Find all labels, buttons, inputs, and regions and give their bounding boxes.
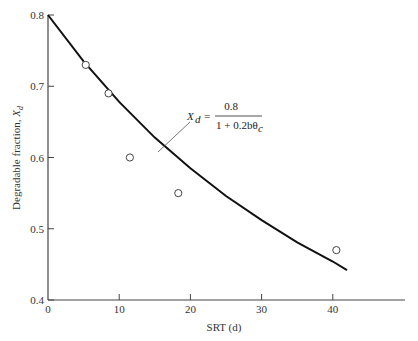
equation-lhs-sub: d [195, 113, 201, 125]
x-ticks: 010203040 [45, 294, 339, 315]
equation-equals: = [204, 110, 210, 122]
y-tick-label: 0.8 [30, 9, 44, 21]
equation-denominator-sub: c [258, 122, 263, 134]
x-tick-label: 40 [327, 303, 339, 315]
svg-text:Degradable fraction, Xd: Degradable fraction, Xd [10, 105, 25, 210]
equation-annotation: X d = 0.8 1 + 0.2bθ c [186, 100, 263, 134]
x-tick-label: 30 [256, 303, 268, 315]
data-point [105, 90, 112, 97]
y-tick-label: 0.4 [30, 294, 44, 306]
x-axis-label: SRT (d) [207, 321, 242, 334]
y-tick-label: 0.7 [30, 80, 44, 92]
x-tick-label: 20 [185, 303, 197, 315]
model-curve [48, 15, 347, 270]
data-point [175, 190, 182, 197]
annotation-leader-line [158, 122, 190, 152]
y-ticks: 0.40.50.60.70.8 [30, 9, 54, 306]
data-point [333, 247, 340, 254]
y-axis-label-sub: d [16, 105, 25, 110]
x-tick-label: 10 [114, 303, 126, 315]
equation-denominator: 1 + 0.2bθ [216, 119, 258, 131]
data-points [82, 61, 340, 253]
equation-numerator: 0.8 [224, 100, 238, 112]
equation-lhs-var: X [186, 110, 195, 122]
x-tick-label: 0 [45, 303, 51, 315]
axes [48, 15, 405, 300]
data-point [126, 154, 133, 161]
data-point [82, 61, 89, 68]
y-axis-label-text: Degradable fraction, [10, 117, 22, 210]
degradable-fraction-chart: 0.40.50.60.70.8 010203040 X d = 0.8 1 + … [0, 0, 418, 341]
y-axis-label: Degradable fraction, Xd [10, 105, 25, 210]
y-tick-label: 0.6 [30, 152, 44, 164]
y-tick-label: 0.5 [30, 223, 44, 235]
